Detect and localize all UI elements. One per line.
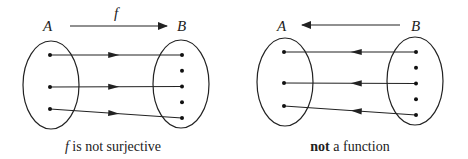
set-b-ellipse [153, 40, 209, 128]
mapping-arrowhead [351, 49, 362, 55]
set-a-label: A [42, 18, 53, 34]
codomain-point [180, 100, 184, 104]
set-b-label: B [177, 18, 186, 34]
codomain-point [180, 53, 184, 57]
domain-point [282, 81, 286, 85]
caption-not-a-function: not a function [310, 139, 389, 154]
domain-point [282, 104, 286, 108]
codomain-point [414, 82, 418, 86]
caption-bold: not [310, 139, 330, 154]
caption-not-surjective: f is not surjective [65, 139, 161, 154]
caption-text: is not surjective [69, 139, 161, 154]
mapping-arrowhead [108, 84, 119, 90]
codomain-point [414, 50, 418, 54]
codomain-point [180, 69, 184, 73]
codomain-point [414, 97, 418, 101]
mapping-arrowhead [351, 80, 362, 86]
function-diagrams-figure: A B f f is not surjective A B not a func… [0, 0, 468, 159]
mapping-line [284, 83, 416, 84]
set-b-label: B [411, 18, 420, 34]
caption-text: a function [330, 139, 390, 154]
codomain-point [414, 113, 418, 117]
codomain-point [180, 85, 184, 89]
set-b-ellipse [387, 37, 443, 125]
codomain-point [414, 66, 418, 70]
domain-point [48, 53, 52, 57]
diagram-not-a-function: A B not a function [257, 18, 443, 154]
codomain-point [180, 116, 184, 120]
map-f-label: f [114, 5, 120, 21]
domain-point [282, 50, 286, 54]
domain-point [48, 85, 52, 89]
mapping-arrowhead [108, 110, 119, 116]
mapping-arrowhead [351, 108, 362, 114]
set-a-label: A [276, 18, 287, 34]
domain-point [48, 107, 52, 111]
mapping-arrowhead [108, 52, 119, 58]
diagram-not-surjective: A B f f is not surjective [23, 5, 209, 154]
